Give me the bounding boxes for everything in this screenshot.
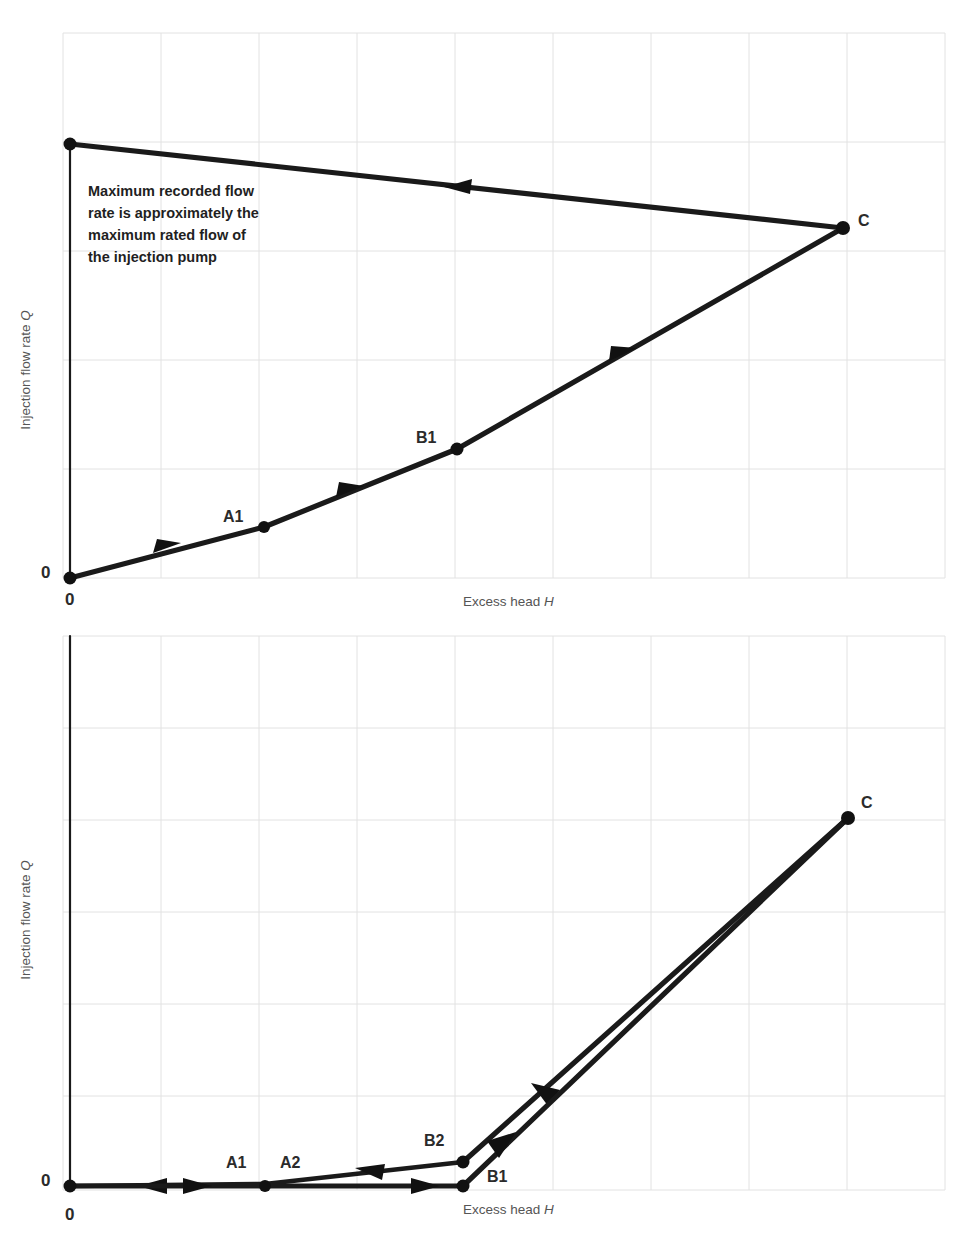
point-label-b1: B1 [416, 429, 437, 446]
marker-a1-2 [259, 1180, 271, 1192]
series-breakdown-leg-down [463, 818, 848, 1162]
marker-b2-2 [457, 1156, 470, 1169]
y-axis-title-text: Injection flow rate [18, 321, 33, 430]
annotation-max-flow: Maximum recorded flow rate is approximat… [88, 183, 259, 265]
arrow-right-baseline-2 [411, 1178, 440, 1194]
x-origin-tick-top: 0 [65, 590, 74, 609]
multi-cycle-chart-svg: A1 A2 B1 B2 C 0 0 Excess head H Injectio… [0, 620, 970, 1246]
point-label-a1: A1 [223, 508, 244, 525]
arrow-left-return-top [444, 179, 472, 194]
arrow-right-seg3 [609, 346, 637, 361]
point-label-a2-2: A2 [280, 1154, 301, 1171]
figure-stack: A1 B1 C Maximum recorded flow rate is ap… [0, 0, 970, 1246]
annotation-line-1: Maximum recorded flow [88, 183, 255, 199]
arrow-right-baseline-1 [183, 1178, 212, 1194]
chart-panel-multi-cycle: A1 A2 B1 B2 C 0 0 Excess head H Injectio… [0, 620, 970, 1246]
y-axis-title-symbol: Q [18, 310, 33, 321]
point-label-c-2: C [861, 794, 873, 811]
x-axis-title-top: Excess head H [463, 594, 554, 609]
annotation-line-3: maximum rated flow of [88, 227, 246, 243]
point-label-b1-2: B1 [487, 1168, 508, 1185]
marker-a1 [258, 521, 270, 533]
gridlines-bottom [63, 636, 945, 1190]
x-axis-title-text-2: Excess head [463, 1202, 544, 1217]
marker-origin [64, 572, 77, 585]
single-cycle-chart-svg: A1 B1 C Maximum recorded flow rate is ap… [0, 0, 970, 620]
marker-c [836, 221, 850, 235]
series-breakdown-leg-up [463, 818, 848, 1186]
series-pressure-up-leg [70, 228, 843, 578]
marker-b1 [451, 443, 464, 456]
point-label-b2-2: B2 [424, 1132, 445, 1149]
x-origin-tick-bottom: 0 [65, 1205, 74, 1224]
marker-origin-2 [64, 1180, 77, 1193]
x-axis-title-text: Excess head [463, 594, 544, 609]
gridlines-top [63, 33, 945, 578]
point-label-c: C [858, 212, 870, 229]
marker-qmax [64, 138, 77, 151]
data-point-markers-bottom [64, 811, 856, 1193]
annotation-line-4: the injection pump [88, 249, 217, 265]
x-axis-title-symbol: H [544, 594, 554, 609]
x-axis-title-symbol-2: H [544, 1202, 554, 1217]
y-axis-title-text-2: Injection flow rate [18, 871, 33, 980]
annotation-line-2: rate is approximately the [88, 205, 259, 221]
x-axis-title-bottom: Excess head H [463, 1202, 554, 1217]
y-axis-title-bottom: Injection flow rate Q [18, 860, 33, 980]
y-origin-tick-top: 0 [41, 563, 50, 582]
marker-b1-2 [457, 1180, 470, 1193]
y-axis-title-top: Injection flow rate Q [18, 310, 33, 430]
marker-c-2 [841, 811, 855, 825]
chart-panel-single-cycle: A1 B1 C Maximum recorded flow rate is ap… [0, 0, 970, 620]
y-axis-title-symbol-2: Q [18, 860, 33, 871]
point-label-a1-2: A1 [226, 1154, 247, 1171]
y-origin-tick-bottom: 0 [41, 1171, 50, 1190]
